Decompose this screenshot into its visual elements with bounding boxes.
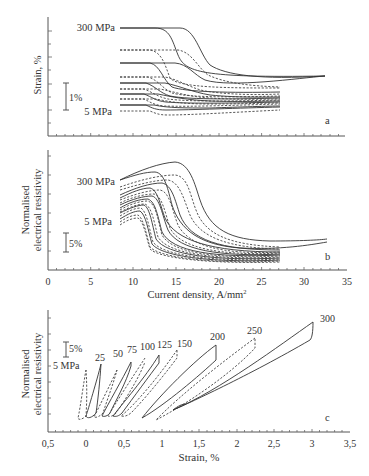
panel-c-x-tick-labels: 0,5 0 0,5 1 1,5 2 2,5 3 3,5 xyxy=(42,438,357,449)
panel-a-scale-bar: 1% xyxy=(63,83,82,110)
panel-b-curves xyxy=(120,162,327,262)
panel-c-panel-label: c xyxy=(325,412,330,423)
panel-c: 0,5 0 0,5 1 1,5 2 2,5 3 3,5 Strain, % No… xyxy=(20,310,356,463)
svg-text:10: 10 xyxy=(128,276,138,287)
svg-text:2: 2 xyxy=(235,438,240,449)
svg-text:electrical resistivity: electrical resistivity xyxy=(32,168,43,251)
svg-text:3,5: 3,5 xyxy=(344,438,357,449)
panel-c-scale-bar-label: 5% xyxy=(69,343,82,354)
panel-a-y-ticks xyxy=(48,31,52,123)
svg-text:15: 15 xyxy=(171,276,181,287)
svg-text:electrical resistivity: electrical resistivity xyxy=(32,332,43,415)
panel-b-top-series-label: 300 MPa xyxy=(77,176,116,187)
panel-b-x-axis-label: Current density, A/mm2 xyxy=(147,288,246,300)
svg-text:2,5: 2,5 xyxy=(268,438,281,449)
panel-a-top-series-label: 300 MPa xyxy=(77,22,116,33)
svg-text:30: 30 xyxy=(299,276,309,287)
svg-text:3: 3 xyxy=(310,438,315,449)
svg-text:25: 25 xyxy=(95,352,105,363)
svg-text:300: 300 xyxy=(320,313,335,324)
panel-a-scale-bar-label: 1% xyxy=(69,92,82,103)
panel-b-x-tick-labels: 0 5 10 15 20 25 30 35 xyxy=(46,276,353,287)
svg-text:5: 5 xyxy=(88,276,93,287)
svg-text:0,5: 0,5 xyxy=(42,438,55,449)
panel-c-loop-labels: 5 MPa 25 50 75 100 125 150 200 250 300 xyxy=(53,313,335,371)
svg-text:20: 20 xyxy=(214,276,224,287)
panel-a-curves xyxy=(120,28,325,115)
panel-c-y-axis-label: Normalised electrical resistivity xyxy=(20,332,43,415)
panel-b-bottom-series-label: 5 MPa xyxy=(84,216,112,227)
panel-c-scale-bar: 5% xyxy=(63,342,82,357)
svg-text:150: 150 xyxy=(177,338,192,349)
svg-text:75: 75 xyxy=(127,344,137,355)
panel-c-x-axis-label: Strain, % xyxy=(179,451,220,463)
panel-c-loops xyxy=(78,322,313,420)
panel-b-y-axis-label: Normalised electrical resistivity xyxy=(20,168,43,251)
panel-a-bottom-series-label: 5 MPa xyxy=(84,106,112,117)
svg-text:35: 35 xyxy=(342,276,352,287)
svg-text:0: 0 xyxy=(46,276,51,287)
svg-text:200: 200 xyxy=(210,331,225,342)
svg-text:100: 100 xyxy=(140,341,155,352)
figure: Strain, % 1% 300 MPa 5 MPa a xyxy=(0,0,369,476)
svg-text:250: 250 xyxy=(247,325,262,336)
panel-a-panel-label: a xyxy=(325,115,330,126)
panel-a: Strain, % 1% 300 MPa 5 MPa a xyxy=(32,17,345,136)
panel-b: 0 5 10 15 20 25 30 35 Current density, A… xyxy=(20,150,352,300)
svg-text:50: 50 xyxy=(113,348,123,359)
svg-text:1,5: 1,5 xyxy=(193,438,206,449)
svg-text:125: 125 xyxy=(157,339,172,350)
svg-text:0: 0 xyxy=(84,438,89,449)
svg-text:Normalised: Normalised xyxy=(20,185,31,235)
svg-text:5 MPa: 5 MPa xyxy=(53,360,80,371)
panel-b-scale-bar-label: 5% xyxy=(69,238,82,249)
panel-b-axes xyxy=(48,150,347,270)
panel-b-scale-bar: 5% xyxy=(63,233,82,252)
svg-text:0,5: 0,5 xyxy=(118,438,131,449)
panel-a-y-axis-label: Strain, % xyxy=(32,55,43,94)
svg-text:25: 25 xyxy=(257,276,267,287)
panel-b-panel-label: b xyxy=(325,251,330,262)
svg-text:1: 1 xyxy=(160,438,165,449)
svg-text:Normalised: Normalised xyxy=(20,349,31,399)
